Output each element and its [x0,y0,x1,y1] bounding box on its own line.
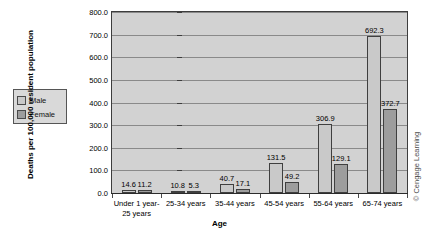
legend-item-female: Female [17,108,63,121]
bar-value-label: 40.7 [220,174,235,183]
x-tick-mark [309,194,310,198]
x-tick-mark [210,194,211,198]
x-tick-mark [112,194,113,198]
x-tick-label: 35-44 years [215,199,255,209]
y-axis-title: Deaths per 100,000 resident population [26,15,35,195]
bar-value-label: 14.6 [121,180,136,189]
bar-value-label: 131.5 [267,153,286,162]
x-tick-label: 45-54 years [264,199,304,209]
y-tick-label: 100.0 [74,166,108,175]
bar-male-5 [367,36,381,193]
bar-value-label: 11.2 [138,180,152,189]
x-tick-mark [260,194,261,198]
x-tick-label: Under 1 year-25 years [114,199,160,218]
bar-value-label: 10.8 [170,181,185,190]
bar-value-label: 692.3 [365,26,384,35]
x-axis-title: Age [0,219,439,228]
chart-legend: Male Female [13,89,67,124]
y-tick-label: 0.0 [74,189,108,198]
x-tick-mark [358,194,359,198]
bar-value-label: 372.7 [381,99,400,108]
bar-value-label: 129.1 [332,154,351,163]
bar-value-label: 17.1 [236,179,251,188]
x-tick-label: 25-34 years [166,199,206,209]
bar-male-3 [269,163,283,193]
x-tick-label: 65-74 years [363,199,403,209]
y-tick-label: 500.0 [74,75,108,84]
y-tick-label: 800.0 [74,8,108,17]
bar-value-label: 306.9 [316,114,335,123]
x-tick-mark [161,194,162,198]
bar-male-2 [220,184,234,193]
y-tick-label: 400.0 [74,98,108,107]
x-tick-label: 55-64 years [313,199,353,209]
bar-value-label: 49.2 [285,172,300,181]
bar-male-4 [318,124,332,193]
legend-item-male: Male [17,94,63,107]
y-tick-label: 200.0 [74,143,108,152]
y-tick-label: 600.0 [74,53,108,62]
bar-value-label: 5.3 [189,181,199,190]
y-axis-ticks: 800.0700.0600.0500.0400.0300.0200.0100.0… [72,11,108,194]
bar-female-3 [285,182,299,193]
chart-figure: Male Female Deaths per 100,000 resident … [0,0,439,239]
y-tick-label: 300.0 [74,121,108,130]
bar-female-4 [334,164,348,193]
bars-layer: 14.610.840.7131.5306.9692.311.25.317.149… [112,12,407,193]
x-tick-mark [407,194,408,198]
y-tick-label: 700.0 [74,30,108,39]
copyright-notice: © Cengage Learning [412,112,421,222]
bar-female-5 [383,109,397,193]
